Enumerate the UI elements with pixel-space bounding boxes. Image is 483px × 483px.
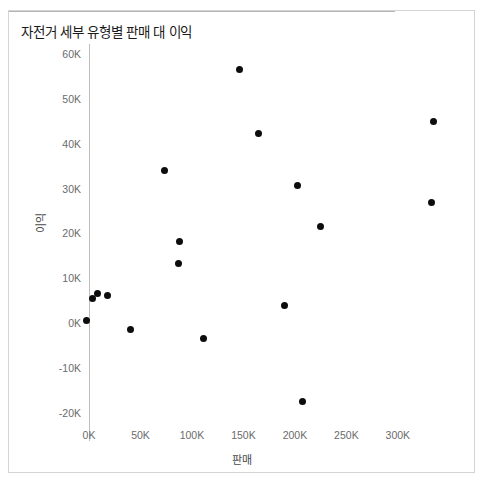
y-axis-tick-label: 50K: [17, 93, 81, 105]
scatter-plot-area: [89, 54, 469, 431]
y-axis-tick-label: -20K: [17, 407, 81, 419]
y-axis-tick-label: 20K: [17, 227, 81, 239]
scatter-point[interactable]: [104, 292, 111, 299]
y-axis-tick-label: 0K: [17, 317, 81, 329]
scatter-point[interactable]: [428, 199, 435, 206]
y-axis-tick-label: 10K: [17, 272, 81, 284]
scatter-point[interactable]: [161, 167, 168, 174]
y-axis-tick-label: 30K: [17, 183, 81, 195]
scatter-point[interactable]: [299, 398, 306, 405]
scatter-point[interactable]: [176, 238, 183, 245]
scatter-point[interactable]: [200, 335, 207, 342]
x-axis-title: 판매: [9, 451, 474, 467]
scatter-point[interactable]: [317, 223, 324, 230]
zero-reference-line: [9, 11, 395, 12]
y-axis-tick-label: 60K: [17, 48, 81, 60]
scatter-point[interactable]: [127, 326, 134, 333]
chart-container: 자전거 세부 유형별 판매 대 이익 이익 판매 60K50K40K30K20K…: [8, 10, 475, 473]
chart-title: 자전거 세부 유형별 판매 대 이익: [21, 21, 192, 41]
y-axis-tick-label: -10K: [17, 362, 81, 374]
y-axis-tick-label: 40K: [17, 138, 81, 150]
